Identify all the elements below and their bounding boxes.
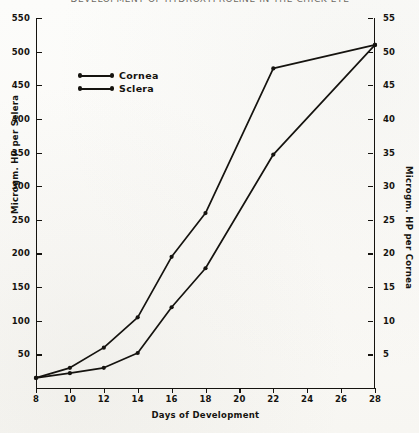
y-left-tick-label: 550	[2, 13, 30, 23]
x-tick-label: 24	[293, 394, 321, 404]
data-point-sclera	[170, 305, 174, 309]
x-tick	[239, 388, 240, 393]
data-point-cornea	[170, 255, 174, 259]
legend-item-sclera: Sclera	[78, 82, 188, 95]
y-left-tick-label: 150	[2, 282, 30, 292]
data-point-cornea	[136, 315, 140, 319]
legend-marker-icon	[78, 71, 114, 80]
x-tick	[273, 388, 274, 393]
y-left-tick-label: 50	[2, 349, 30, 359]
data-point-sclera	[203, 266, 207, 270]
x-tick-label: 18	[192, 394, 220, 404]
x-axis-title: Days of Development	[36, 410, 375, 420]
data-point-sclera	[68, 371, 72, 375]
data-point-cornea	[203, 211, 207, 215]
x-tick	[206, 388, 207, 393]
y-right-tick-label: 40	[383, 114, 407, 124]
x-tick-label: 14	[124, 394, 152, 404]
y-left-tick-label: 100	[2, 316, 30, 326]
data-point-sclera	[136, 351, 140, 355]
y-left-tick-label: 450	[2, 80, 30, 90]
x-tick	[172, 388, 173, 393]
x-tick-label: 16	[158, 394, 186, 404]
x-tick	[341, 388, 342, 393]
y-axis-left-title: Microgm. HP per Sclera	[10, 95, 20, 214]
data-point-cornea	[102, 346, 106, 350]
x-tick-label: 10	[56, 394, 84, 404]
chart-legend: CorneaSclera	[78, 69, 188, 95]
legend-label: Cornea	[119, 70, 159, 81]
x-tick	[375, 388, 376, 393]
x-tick	[138, 388, 139, 393]
x-tick	[104, 388, 105, 393]
y-left-tick-label: 200	[2, 248, 30, 258]
y-axis-right-title: Microgm. HP per Cornea	[404, 166, 414, 289]
figure-title-sliver: DEVELOPMENT OF HYDROXYPROLINE IN THE CHI…	[62, 0, 358, 5]
y-right-tick-label: 50	[383, 47, 407, 57]
x-tick	[70, 388, 71, 393]
figure-title-text: DEVELOPMENT OF HYDROXYPROLINE IN THE CHI…	[62, 0, 358, 4]
data-point-sclera	[271, 152, 275, 156]
figure-page: DEVELOPMENT OF HYDROXYPROLINE IN THE CHI…	[0, 0, 419, 433]
x-tick-label: 22	[259, 394, 287, 404]
data-point-cornea	[271, 66, 275, 70]
x-tick-label: 8	[22, 394, 50, 404]
data-point-sclera	[34, 376, 38, 380]
data-point-cornea	[68, 366, 72, 370]
x-tick	[307, 388, 308, 393]
legend-label: Sclera	[119, 83, 154, 94]
y-right-tick-label: 10	[383, 316, 407, 326]
x-tick-label: 20	[225, 394, 253, 404]
y-left-tick-label: 500	[2, 47, 30, 57]
data-point-sclera	[373, 43, 377, 47]
x-tick	[36, 388, 37, 393]
legend-item-cornea: Cornea	[78, 69, 188, 82]
x-tick-label: 26	[327, 394, 355, 404]
y-right-tick-label: 45	[383, 80, 407, 90]
y-right-tick-label: 35	[383, 148, 407, 158]
x-tick-label: 12	[90, 394, 118, 404]
x-tick-label: 28	[361, 394, 389, 404]
data-point-sclera	[102, 366, 106, 370]
y-left-tick-label: 250	[2, 215, 30, 225]
y-right-tick-label: 55	[383, 13, 407, 23]
legend-marker-icon	[78, 84, 114, 93]
y-right-tick-label: 5	[383, 349, 407, 359]
